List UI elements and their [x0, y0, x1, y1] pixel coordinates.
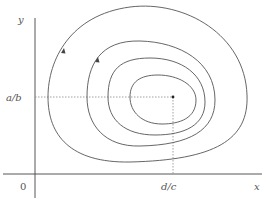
y-axis-label: y: [17, 14, 24, 25]
equilibrium-x-label: d/c: [161, 181, 177, 192]
orbit-4: [130, 75, 196, 124]
orbit-1: [48, 6, 247, 162]
orbit-2: [87, 41, 215, 146]
equilibrium-point: [172, 96, 175, 99]
phase-portrait-diagram: y x 0 a/b d/c: [0, 0, 269, 209]
x-axis-label: x: [254, 181, 260, 192]
origin-label: 0: [20, 181, 26, 192]
equilibrium-y-label: a/b: [6, 92, 22, 103]
